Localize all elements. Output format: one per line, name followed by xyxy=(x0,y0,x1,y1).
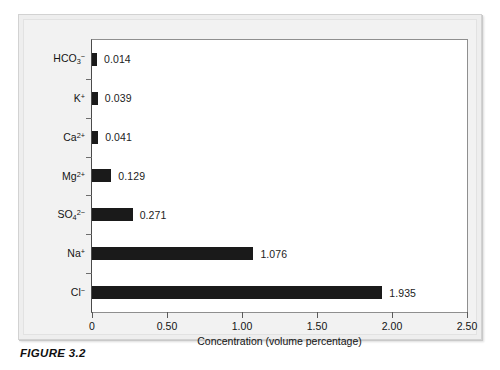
bar-SO42- xyxy=(92,208,133,221)
category-label-SO42-: SO42− xyxy=(25,209,85,221)
bar-value-label: 1.935 xyxy=(389,287,416,299)
figure-panel-inner: HCO3−0.014K+0.039Ca2+0.041Mg2+0.129SO42−… xyxy=(23,19,477,335)
bar-K+ xyxy=(92,92,98,105)
x-axis-tick-label: 1.00 xyxy=(232,320,252,332)
bar-value-label: 0.271 xyxy=(140,209,167,221)
x-axis-tick xyxy=(317,312,318,318)
bar-row: SO42−0.271 xyxy=(92,195,467,234)
y-axis-tick xyxy=(86,195,92,196)
category-label-K+: K+ xyxy=(25,93,85,104)
category-label-Na+: Na+ xyxy=(25,248,85,259)
bar-row: Mg2+0.129 xyxy=(92,157,467,196)
category-label-Cl-: Cl− xyxy=(25,287,85,298)
bar-value-label: 0.014 xyxy=(104,53,131,65)
x-axis-tick xyxy=(92,312,93,318)
x-axis-tick xyxy=(467,312,468,318)
category-label-Ca2+: Ca2+ xyxy=(25,132,85,143)
bar-Mg2+ xyxy=(92,169,111,182)
bar-Cl- xyxy=(92,286,382,299)
bar-value-label: 0.129 xyxy=(118,170,145,182)
bar-value-label: 0.039 xyxy=(105,92,132,104)
bar-row: Na+1.076 xyxy=(92,234,467,273)
y-axis-tick xyxy=(86,118,92,119)
x-axis-tick xyxy=(242,312,243,318)
category-label-Mg2+: Mg2+ xyxy=(25,171,85,182)
figure-caption: FIGURE 3.2 xyxy=(20,347,86,359)
bar-value-label: 1.076 xyxy=(260,248,287,260)
bar-Ca2+ xyxy=(92,131,98,144)
category-label-HCO3-: HCO3− xyxy=(25,53,85,65)
plot-area: HCO3−0.014K+0.039Ca2+0.041Mg2+0.129SO42−… xyxy=(91,39,468,313)
figure-panel: HCO3−0.014K+0.039Ca2+0.041Mg2+0.129SO42−… xyxy=(18,14,482,340)
bar-Na+ xyxy=(92,247,253,260)
y-axis-tick xyxy=(86,79,92,80)
bar-value-label: 0.041 xyxy=(105,131,132,143)
x-axis-tick-label: 2.50 xyxy=(457,320,477,332)
x-axis-tick-label: 1.50 xyxy=(307,320,327,332)
y-axis-tick xyxy=(86,234,92,235)
bar-HCO3- xyxy=(92,53,97,66)
x-axis-tick-label: 2.00 xyxy=(382,320,402,332)
y-axis-tick xyxy=(86,157,92,158)
bar-row: Cl−1.935 xyxy=(92,273,467,312)
bar-row: K+0.039 xyxy=(92,79,467,118)
x-axis-tick-label: 0 xyxy=(89,320,95,332)
x-axis-title: Concentration (volume percentage) xyxy=(92,335,467,347)
x-axis-tick xyxy=(392,312,393,318)
x-axis-tick-label: 0.50 xyxy=(157,320,177,332)
y-axis-tick xyxy=(86,273,92,274)
bar-row: Ca2+0.041 xyxy=(92,118,467,157)
bar-row: HCO3−0.014 xyxy=(92,40,467,79)
x-axis-tick xyxy=(167,312,168,318)
